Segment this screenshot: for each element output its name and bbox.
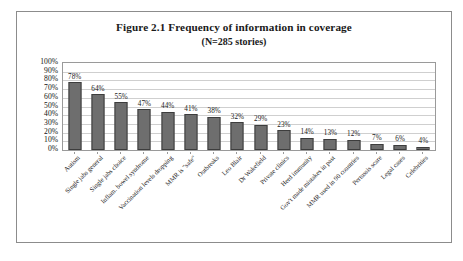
y-axis-tick-label: 40% — [44, 110, 58, 118]
bars-layer: 78%64%55%47%44%41%38%32%29%23%14%13%12%7… — [63, 63, 435, 150]
bar-group: 64% — [86, 63, 109, 150]
bar — [324, 139, 337, 150]
bar — [91, 94, 104, 150]
bar — [184, 114, 197, 150]
bar-value-label: 6% — [395, 135, 405, 143]
bar — [68, 82, 81, 150]
bar-value-label: 12% — [347, 130, 360, 138]
y-axis-tick-label: 0% — [48, 145, 58, 153]
bar-group: 55% — [110, 63, 133, 150]
bar-value-label: 38% — [208, 107, 221, 115]
bar-group: 4% — [412, 63, 435, 150]
plot-area: 78%64%55%47%44%41%38%32%29%23%14%13%12%7… — [62, 62, 436, 151]
bar-group: 29% — [249, 63, 272, 150]
bar — [370, 144, 383, 150]
y-axis-tick-label: 10% — [44, 137, 58, 145]
page-title: Figure 2.1 Frequency of information in c… — [17, 20, 451, 35]
bar — [347, 140, 360, 150]
bar-value-label: 32% — [231, 113, 244, 121]
bar — [277, 130, 290, 150]
bar-value-label: 23% — [277, 121, 290, 129]
y-axis-tick-label: 20% — [44, 128, 58, 136]
bar — [231, 122, 244, 150]
bar-value-label: 78% — [68, 73, 81, 81]
bar — [161, 112, 174, 150]
bar-value-label: 29% — [254, 115, 267, 123]
bar — [301, 138, 314, 150]
bar-value-label: 47% — [138, 100, 151, 108]
bar-group: 41% — [179, 63, 202, 150]
bar-group: 23% — [272, 63, 295, 150]
bar — [254, 125, 267, 150]
bar-chart: 100%90%80%70%60%50%40%30%20%10%0% 78%64%… — [17, 56, 453, 244]
y-axis: 100%90%80%70%60%50%40%30%20%10%0% — [17, 56, 60, 151]
x-axis: AutismSingle jabs generalSingle jabs cho… — [62, 152, 436, 244]
y-axis-tick-label: 60% — [44, 93, 58, 101]
figure-subtitle: (N=285 stories) — [17, 35, 451, 49]
bar — [138, 109, 151, 150]
bar-value-label: 41% — [184, 105, 197, 113]
y-axis-tick-label: 90% — [44, 67, 58, 75]
bar-value-label: 13% — [324, 129, 337, 137]
figure-frame: Figure 2.1 Frequency of information in c… — [16, 11, 452, 243]
x-axis-tick-label: Outbreaks — [196, 154, 220, 178]
bar — [394, 145, 407, 150]
figure-title-block: Figure 2.1 Frequency of information in c… — [17, 20, 451, 49]
bar-value-label: 44% — [161, 102, 174, 110]
y-axis-tick-label: 80% — [44, 76, 58, 84]
y-axis-tick-label: 30% — [44, 119, 58, 127]
bar-group: 6% — [389, 63, 412, 150]
x-axis-tick-label: Autism — [62, 154, 81, 173]
bar-group: 12% — [342, 63, 365, 150]
y-axis-tick-label: 50% — [44, 102, 58, 110]
bar-group: 47% — [133, 63, 156, 150]
bar-group: 32% — [226, 63, 249, 150]
bar-group: 13% — [319, 63, 342, 150]
bar-value-label: 7% — [372, 134, 382, 142]
bar-value-label: 55% — [115, 93, 128, 101]
x-axis-tick-label: Celebrities — [404, 154, 429, 179]
bar — [417, 147, 430, 150]
bar-group: 78% — [63, 63, 86, 150]
bar-value-label: 14% — [301, 128, 314, 136]
bar-group: 44% — [156, 63, 179, 150]
y-axis-tick-label: 100% — [40, 58, 58, 66]
x-axis-tick-label: Leo Blair — [221, 154, 244, 177]
y-axis-tick-label: 70% — [44, 84, 58, 92]
bar-value-label: 64% — [91, 85, 104, 93]
bar-group: 38% — [203, 63, 226, 150]
bar — [115, 102, 128, 150]
bar-group: 14% — [296, 63, 319, 150]
bar-group: 7% — [365, 63, 388, 150]
bar-value-label: 4% — [419, 137, 429, 145]
bar — [208, 117, 221, 150]
